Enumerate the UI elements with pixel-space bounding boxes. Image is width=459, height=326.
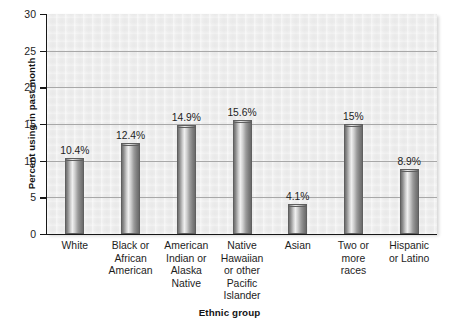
y-tick-mark [40, 51, 47, 52]
category-label-line: Islander [224, 290, 261, 301]
x-axis-line [46, 234, 437, 235]
category-label-line: Native [172, 278, 201, 289]
y-tick-label: 15 [8, 119, 36, 130]
bar [233, 120, 252, 234]
y-tick-mark [40, 14, 47, 15]
category-label-line: Asian [285, 240, 311, 251]
y-tick-mark [40, 234, 47, 235]
category-label: Hispanicor Latino [378, 240, 440, 265]
category-label-line: Hispanic [389, 240, 429, 251]
category-label-line: Alaska [171, 265, 202, 276]
y-tick-label: 5 [8, 192, 36, 203]
category-label-line: Hawaiian [221, 253, 264, 264]
y-tick-label: 20 [8, 82, 36, 93]
y-tick-label: 25 [8, 46, 36, 57]
bar [400, 169, 419, 234]
gridline [47, 51, 437, 52]
category-label-line: African [114, 253, 146, 264]
bar-top-cap [121, 143, 140, 146]
bar-value-label: 15.6% [212, 108, 272, 118]
bar-top-cap [177, 125, 196, 128]
category-label-line: Pacific [227, 278, 258, 289]
category-label: AmericanIndian orAlaskaNative [155, 240, 217, 290]
bar-top-cap [400, 169, 419, 172]
category-label: White [44, 240, 106, 253]
bar-value-label: 12.4% [101, 131, 161, 141]
bar [177, 125, 196, 234]
x-axis-title: Ethnic group [0, 307, 459, 318]
y-tick-label: 10 [8, 156, 36, 167]
category-label-line: American [109, 265, 153, 276]
bar-value-label: 10.4% [45, 146, 105, 156]
category-label-line: Indian or [166, 253, 206, 264]
gridline [47, 87, 437, 88]
plot-area [47, 14, 437, 234]
category-label-line: or other [224, 265, 260, 276]
bar-value-label: 8.9% [379, 157, 439, 167]
category-label-line: White [62, 240, 89, 251]
bar [121, 143, 140, 234]
category-label-line: Native [227, 240, 256, 251]
category-label-line: American [164, 240, 208, 251]
y-tick-mark [40, 87, 47, 88]
bar-top-cap [344, 124, 363, 127]
category-label-line: races [341, 265, 366, 276]
category-label-line: Black or [112, 240, 150, 251]
bar [65, 158, 84, 234]
category-label: Asian [267, 240, 329, 253]
category-label-line: Two or [338, 240, 369, 251]
category-label-line: more [342, 253, 366, 264]
bar-value-label: 14.9% [156, 113, 216, 123]
bar-value-label: 4.1% [268, 192, 328, 202]
bar-top-cap [65, 158, 84, 161]
y-tick-mark [40, 161, 47, 162]
category-label: NativeHawaiianor otherPacificIslander [211, 240, 273, 303]
category-label-line: or Latino [389, 253, 429, 264]
bar-top-cap [288, 204, 307, 207]
y-tick-mark [40, 124, 47, 125]
category-label: Black orAfricanAmerican [100, 240, 162, 278]
bar [344, 124, 363, 234]
y-tick-label: 0 [8, 229, 36, 240]
y-tick-mark [40, 197, 47, 198]
category-label: Two ormoreraces [322, 240, 384, 278]
bar [288, 204, 307, 234]
bar-top-cap [233, 120, 252, 123]
bar-value-label: 15% [323, 112, 383, 122]
y-tick-label: 30 [8, 9, 36, 20]
bar-chart-figure: Percent using in past month 051015202530… [0, 0, 459, 326]
